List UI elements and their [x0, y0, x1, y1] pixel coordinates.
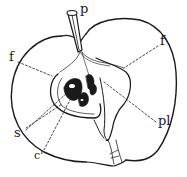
label-stalk: p — [80, 2, 88, 15]
label-core: c' — [34, 150, 43, 161]
label-placenta: pl — [158, 114, 170, 127]
leader-flesh-left — [18, 62, 52, 76]
leader-seed-a — [26, 104, 62, 128]
label-flesh-left: f — [9, 50, 14, 63]
seeds — [64, 74, 97, 106]
apple-section-diagram: p f f s c' pl — [0, 0, 187, 177]
label-flesh-right: f — [160, 34, 165, 47]
apple-illustration — [0, 0, 187, 177]
leader-flesh-right — [124, 46, 158, 68]
label-seed: s — [14, 126, 21, 139]
